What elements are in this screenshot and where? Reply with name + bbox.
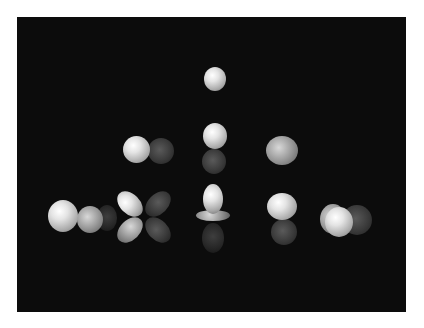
s-orbital	[204, 67, 226, 91]
orbital-render-panel	[17, 17, 406, 312]
